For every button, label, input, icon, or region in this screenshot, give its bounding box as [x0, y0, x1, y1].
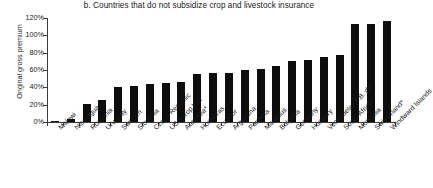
y-tick-label: 100% — [4, 30, 44, 39]
y-tick-100% — [43, 35, 47, 36]
y-tick-label: 60% — [4, 65, 44, 74]
y-tick-label: 80% — [4, 48, 44, 57]
plot-area: MalawiNicaraguaRomaniaUruguaySwedenSlove… — [47, 18, 395, 122]
y-tick-60% — [43, 70, 47, 71]
y-axis-label: Original gross premium — [15, 12, 24, 112]
y-tick-label: 120% — [4, 13, 44, 22]
bar — [51, 121, 59, 122]
y-tick-40% — [43, 87, 47, 88]
y-axis-line — [47, 18, 48, 122]
y-tick-label: 20% — [4, 100, 44, 109]
x-tick — [47, 122, 48, 126]
y-tick-120% — [43, 18, 47, 19]
y-tick-label: 0% — [4, 117, 44, 126]
bar — [383, 21, 391, 122]
y-tick-label: 40% — [4, 82, 44, 91]
chart-title: b. Countries that do not subsidize crop … — [0, 0, 398, 11]
y-tick-80% — [43, 53, 47, 54]
y-tick-20% — [43, 105, 47, 106]
